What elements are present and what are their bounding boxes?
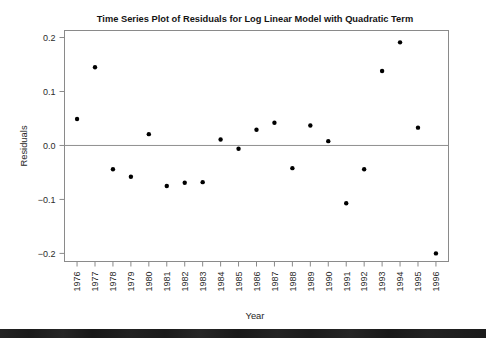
data-point [362,167,366,171]
data-point [254,128,258,132]
data-point [200,180,204,184]
x-axis-title: Year [246,310,265,321]
data-point [326,139,330,143]
chart-figure: Time Series Plot of Residuals for Log Li… [0,0,486,338]
x-tick-label: 1990 [324,272,334,292]
x-tick-label: 1977 [90,272,100,292]
x-tick-label: 1983 [198,272,208,292]
data-point [416,125,420,129]
y-tick-label: 0.0 [43,141,56,151]
plot-border [65,31,449,262]
plot-frame [65,31,449,262]
x-tick-label: 1988 [288,272,298,292]
data-point [111,167,115,171]
x-tick-label: 1984 [216,272,226,292]
data-point [398,40,402,44]
data-point [218,137,222,141]
chart-title: Time Series Plot of Residuals for Log Li… [97,14,413,24]
data-point [165,184,169,188]
data-point [434,251,438,255]
x-tick-label: 1989 [306,272,316,292]
scan-artifact-bar [0,329,486,338]
x-tick-label: 1981 [162,272,172,292]
data-point [236,146,240,150]
data-point [147,132,151,136]
x-tick-label: 1991 [342,272,352,292]
y-tick-label: −0.2 [38,249,56,259]
x-tick-label: 1978 [108,272,118,292]
y-tick-label: 0.2 [43,33,56,43]
x-tick-label: 1982 [180,272,190,292]
x-tick-label: 1986 [252,272,262,292]
y-tick-label: −0.1 [38,195,56,205]
data-point [290,166,294,170]
y-axis: 0.20.10.0−0.1−0.2 [38,33,65,259]
data-point [380,69,384,73]
x-tick-label: 1992 [359,272,369,292]
data-point [308,123,312,127]
data-points [75,40,438,255]
y-tick-label: 0.1 [43,87,56,97]
x-tick-label: 1985 [234,272,244,292]
y-axis-title: Residuals [18,125,29,166]
data-point [93,65,97,69]
x-tick-label: 1994 [395,272,405,292]
x-tick-label: 1980 [144,272,154,292]
residuals-time-series-plot: Time Series Plot of Residuals for Log Li… [0,0,486,338]
data-point [344,201,348,205]
x-tick-label: 1995 [413,272,423,292]
data-point [183,181,187,185]
x-tick-label: 1993 [377,272,387,292]
x-tick-label: 1976 [72,272,82,292]
x-tick-label: 1996 [431,272,441,292]
scan-artifact-texture [0,329,486,338]
data-point [75,117,79,121]
x-tick-label: 1979 [126,272,136,292]
x-axis: 1976197719781979198019811982198319841985… [72,262,441,292]
data-point [129,175,133,179]
data-point [272,121,276,125]
x-tick-label: 1987 [270,272,280,292]
